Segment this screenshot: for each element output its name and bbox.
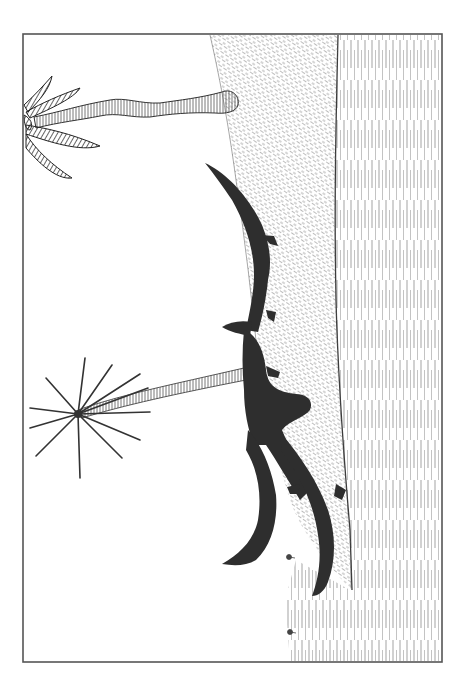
palm-tree-lower [30, 358, 246, 478]
hillside [210, 35, 352, 590]
palm-tree-upper [24, 76, 238, 178]
pterosaur-illustration [0, 0, 462, 698]
